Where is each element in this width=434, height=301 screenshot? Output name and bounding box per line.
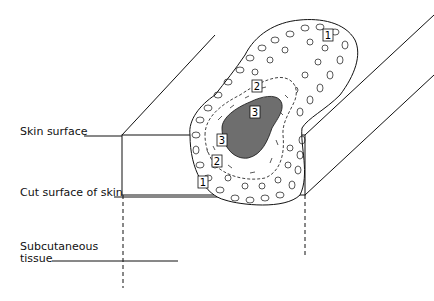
svg-text:3: 3 (252, 107, 258, 118)
svg-text:1: 1 (200, 177, 206, 188)
svg-text:2: 2 (254, 81, 260, 92)
zone-3-marker-front: 3 (217, 134, 227, 146)
svg-text:3: 3 (219, 135, 225, 146)
svg-text:1: 1 (325, 30, 331, 41)
zone-2-marker-front: 2 (212, 155, 222, 167)
svg-text:2: 2 (214, 156, 220, 167)
cut-surface-label: Cut surface of skin (20, 187, 123, 199)
zone-1-marker-top: 1 (323, 29, 333, 41)
skin-surface-label: Skin surface (20, 126, 88, 138)
zone-1-marker-front: 1 (198, 176, 208, 188)
zone-3-marker-top: 3 (250, 106, 260, 118)
zone-2-marker-top: 2 (252, 80, 262, 92)
skin-block-diagram: 1 1 2 2 3 3 (0, 0, 434, 301)
subcutaneous-label-line2: tissue (20, 253, 53, 265)
